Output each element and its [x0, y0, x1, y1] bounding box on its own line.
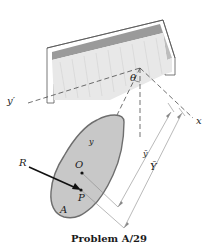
label-Y-bar: Ȳ [150, 162, 157, 172]
label-y-prime: y′ [7, 96, 15, 106]
label-O: O [75, 160, 83, 170]
diagram-figure: θ y′ x y ȳ Ȳ R O P A Problem A/29 [0, 0, 218, 249]
label-y: y [89, 138, 94, 146]
label-theta: θ [130, 73, 136, 83]
figure-caption: Problem A/29 [0, 233, 218, 244]
diagram-canvas [0, 0, 218, 249]
label-x: x [196, 116, 202, 126]
label-A: A [60, 205, 67, 215]
label-R: R [19, 158, 27, 168]
label-y-bar: ȳ [143, 150, 148, 158]
x-axis [140, 68, 193, 118]
ceiling-support [47, 20, 175, 103]
point-O-marker [80, 171, 83, 174]
label-P: P [78, 193, 85, 203]
